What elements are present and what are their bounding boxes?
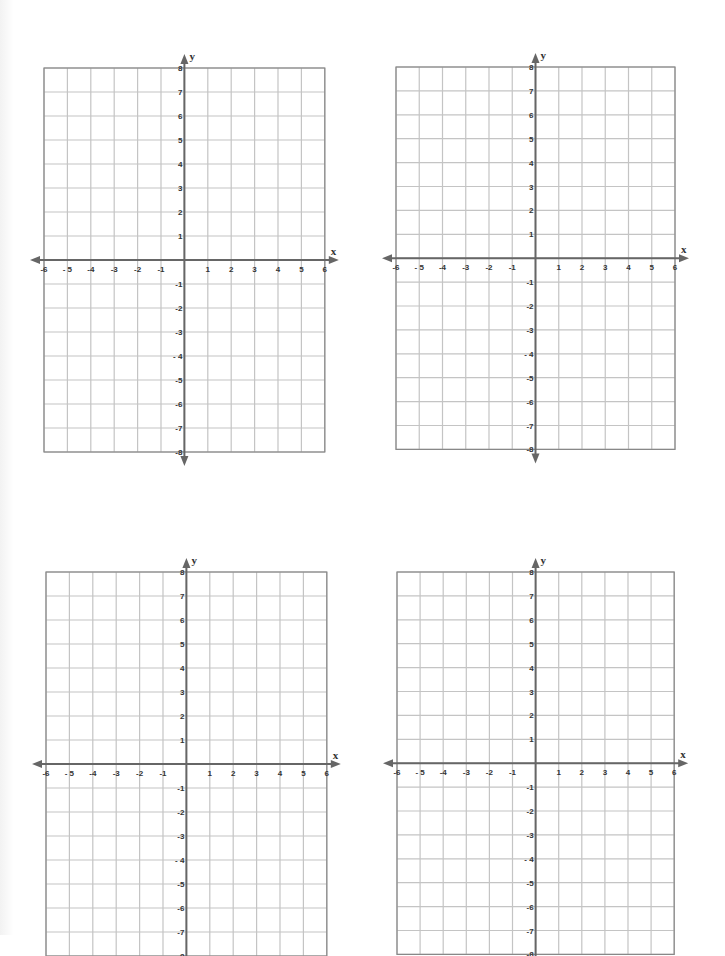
x-tick-label: -1: [509, 768, 517, 777]
y-axis-label: y: [541, 554, 547, 566]
y-tick-labels: 12345678-1-2-3- 4-5-6-7-8: [524, 568, 534, 956]
y-axis-down-arrow-icon: [180, 456, 188, 466]
y-tick-label: 4: [178, 160, 183, 169]
x-tick-label: 1: [556, 768, 561, 777]
x-axis-left-arrow-icon: [382, 254, 392, 262]
y-tick-label: 4: [529, 664, 534, 673]
x-tick-label: 3: [254, 769, 259, 778]
x-axis-right-arrow-icon: [678, 759, 688, 767]
y-tick-label: -6: [526, 398, 534, 407]
x-tick-label: 2: [229, 265, 234, 274]
x-tick-label: - 5: [65, 769, 75, 778]
x-tick-label: -6: [393, 768, 401, 777]
axes: [383, 558, 688, 956]
x-tick-label: -6: [42, 769, 50, 778]
y-tick-label: 3: [178, 184, 183, 193]
y-tick-labels: 12345678-1-2-3- 4-5-6-7-8: [175, 568, 185, 956]
coordinate-plane-2: xy-6- 5-4-3-2-112345612345678-1-2-3- 4-5…: [396, 67, 675, 449]
y-axis-up-arrow-icon: [532, 558, 540, 568]
y-tick-label: -6: [177, 904, 185, 913]
x-tick-label: 2: [231, 769, 236, 778]
y-tick-label: 6: [529, 111, 534, 120]
coordinate-plane-4: xy-6- 5-4-3-2-112345612345678-1-2-3- 4-5…: [397, 572, 674, 954]
x-tick-label: -4: [439, 263, 447, 272]
x-tick-label: 6: [672, 768, 677, 777]
y-tick-label: -1: [526, 278, 534, 287]
y-tick-label: -2: [177, 808, 185, 817]
x-tick-label: 1: [206, 265, 211, 274]
y-tick-label: -7: [177, 928, 185, 937]
x-tick-label: -2: [136, 769, 144, 778]
y-tick-label: 8: [529, 568, 534, 577]
y-tick-label: 5: [529, 135, 534, 144]
grid-svg: xy-6- 5-4-3-2-112345612345678-1-2-3- 4-5…: [46, 572, 327, 956]
y-tick-label: 1: [529, 230, 534, 239]
x-tick-label: 2: [580, 263, 585, 272]
x-tick-label: -1: [157, 265, 165, 274]
coordinate-plane-1: xy-6- 5-4-3-2-112345612345678-1-2-3- 4-5…: [44, 68, 325, 452]
y-axis-up-arrow-icon: [182, 558, 190, 568]
y-tick-label: -3: [526, 831, 534, 840]
axes: [32, 558, 341, 956]
y-tick-label: -5: [526, 374, 534, 383]
coordinate-plane-3: xy-6- 5-4-3-2-112345612345678-1-2-3- 4-5…: [46, 572, 327, 956]
y-tick-label: 7: [180, 592, 185, 601]
x-axis-left-arrow-icon: [30, 256, 40, 264]
y-axis-down-arrow-icon: [532, 453, 540, 463]
y-tick-label: 6: [180, 616, 185, 625]
x-tick-label: - 5: [415, 768, 425, 777]
y-tick-label: 4: [180, 664, 185, 673]
grid-svg: xy-6- 5-4-3-2-112345612345678-1-2-3- 4-5…: [396, 67, 675, 449]
x-tick-label: 2: [580, 768, 585, 777]
x-tick-label: -6: [392, 263, 400, 272]
x-tick-label: 5: [299, 265, 304, 274]
y-tick-label: -3: [177, 832, 185, 841]
x-axis-label: x: [333, 749, 339, 761]
x-tick-label: -4: [440, 768, 448, 777]
y-tick-label: -8: [177, 952, 185, 956]
y-tick-label: 6: [529, 616, 534, 625]
y-axis-label: y: [189, 50, 195, 62]
x-tick-label: 4: [626, 263, 631, 272]
x-tick-label: 3: [252, 265, 257, 274]
y-axis-label: y: [191, 554, 197, 566]
y-tick-label: -7: [526, 422, 534, 431]
x-tick-label: 6: [673, 263, 678, 272]
y-tick-label: 3: [180, 688, 185, 697]
y-tick-label: -8: [526, 445, 534, 454]
grid-svg: xy-6- 5-4-3-2-112345612345678-1-2-3- 4-5…: [44, 68, 325, 452]
x-tick-label: -2: [134, 265, 142, 274]
y-tick-label: -1: [177, 784, 185, 793]
x-tick-label: 5: [301, 769, 306, 778]
x-tick-label: 1: [208, 769, 213, 778]
y-tick-label: 6: [178, 112, 183, 121]
y-tick-label: - 4: [524, 855, 534, 864]
y-tick-label: -2: [526, 807, 534, 816]
x-tick-label: 1: [557, 263, 562, 272]
x-tick-label: 4: [276, 265, 281, 274]
y-tick-label: 5: [180, 640, 185, 649]
x-tick-label: 3: [603, 263, 608, 272]
x-tick-label: -3: [111, 265, 119, 274]
x-axis-right-arrow-icon: [331, 760, 341, 768]
y-tick-label: -1: [526, 783, 534, 792]
y-tick-label: 7: [529, 592, 534, 601]
y-tick-label: 5: [178, 136, 183, 145]
x-tick-label: -2: [485, 263, 493, 272]
y-tick-label: -1: [175, 280, 183, 289]
x-tick-label: -3: [113, 769, 121, 778]
y-axis-up-arrow-icon: [180, 54, 188, 64]
y-tick-label: -3: [175, 328, 183, 337]
grid-svg: xy-6- 5-4-3-2-112345612345678-1-2-3- 4-5…: [397, 572, 674, 954]
y-tick-label: 2: [180, 712, 185, 721]
y-tick-label: 2: [529, 711, 534, 720]
y-tick-label: -5: [526, 879, 534, 888]
x-tick-label: -3: [463, 768, 471, 777]
x-tick-label: 3: [603, 768, 608, 777]
y-tick-label: -5: [175, 376, 183, 385]
x-tick-label: 4: [278, 769, 283, 778]
y-tick-label: - 4: [175, 856, 185, 865]
y-tick-label: -6: [526, 903, 534, 912]
x-axis-label: x: [331, 245, 337, 257]
x-tick-label: 6: [323, 265, 328, 274]
